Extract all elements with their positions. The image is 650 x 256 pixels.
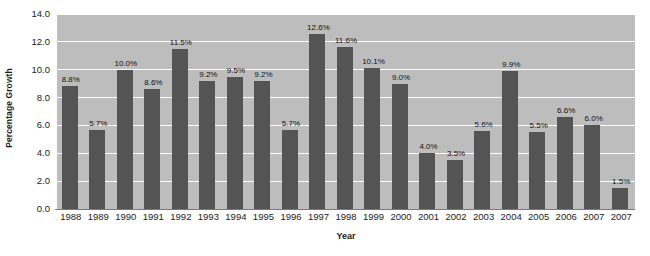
bar-value-label: 1.5% bbox=[607, 178, 635, 186]
x-axis-tick-label: 2003 bbox=[470, 211, 498, 223]
bar-value-label: 3.5% bbox=[442, 150, 470, 158]
bar-group[interactable]: 11.6% bbox=[332, 14, 360, 209]
bar-group[interactable]: 3.5% bbox=[442, 14, 470, 209]
bar[interactable] bbox=[419, 153, 435, 209]
x-axis-tick-label: 1989 bbox=[85, 211, 113, 223]
bar-value-label: 9.2% bbox=[195, 71, 223, 79]
bar-value-label: 10.1% bbox=[360, 58, 388, 66]
bar-group[interactable]: 6.6% bbox=[552, 14, 580, 209]
bar-value-label: 8.6% bbox=[140, 79, 168, 87]
x-axis-tick-label: 2004 bbox=[497, 211, 525, 223]
bar-group[interactable]: 6.0% bbox=[580, 14, 608, 209]
x-axis-tick-label: 1999 bbox=[360, 211, 388, 223]
y-axis-title-label: Percentage Growth bbox=[4, 68, 14, 148]
x-axis-tick-label: 2002 bbox=[442, 211, 470, 223]
bar[interactable] bbox=[199, 81, 215, 209]
y-axis-tick-labels: 0.02.04.06.08.010.012.014.0 bbox=[18, 14, 54, 209]
y-axis-tick-label: 4.0 bbox=[16, 149, 50, 159]
bar-group[interactable]: 10.1% bbox=[360, 14, 388, 209]
y-axis-tick-label: 14.0 bbox=[16, 9, 50, 19]
bar[interactable] bbox=[364, 68, 380, 209]
bar[interactable] bbox=[282, 130, 298, 209]
x-axis-tick-label: 2006 bbox=[552, 211, 580, 223]
x-axis-tick-label: 1992 bbox=[167, 211, 195, 223]
x-axis-tick-label: 1991 bbox=[140, 211, 168, 223]
bar-group[interactable]: 1.5% bbox=[607, 14, 635, 209]
x-axis-tick-label: 1993 bbox=[195, 211, 223, 223]
bar[interactable] bbox=[227, 77, 243, 209]
x-axis-tick-label: 2001 bbox=[415, 211, 443, 223]
bar-value-label: 11.5% bbox=[167, 39, 195, 47]
bar-group[interactable]: 11.5% bbox=[167, 14, 195, 209]
y-axis-tick-label: 12.0 bbox=[16, 37, 50, 47]
plot-area: 8.8%5.7%10.0%8.6%11.5%9.2%9.5%9.2%5.7%12… bbox=[57, 14, 635, 209]
bar[interactable] bbox=[337, 47, 353, 209]
bar[interactable] bbox=[557, 117, 573, 209]
bar-value-label: 9.5% bbox=[222, 67, 250, 75]
bar[interactable] bbox=[502, 71, 518, 209]
bar-value-label: 5.6% bbox=[470, 121, 498, 129]
bar-value-label: 5.5% bbox=[525, 122, 553, 130]
bar-value-label: 9.9% bbox=[497, 61, 525, 69]
bar-group[interactable]: 9.9% bbox=[497, 14, 525, 209]
y-axis-tick-label: 10.0 bbox=[16, 65, 50, 75]
bar-value-label: 12.6% bbox=[305, 24, 333, 32]
bar-group[interactable]: 9.2% bbox=[195, 14, 223, 209]
bar-value-label: 5.7% bbox=[85, 120, 113, 128]
bar-group[interactable]: 12.6% bbox=[305, 14, 333, 209]
y-axis-tick-label: 8.0 bbox=[16, 93, 50, 103]
x-axis-tick-label: 1994 bbox=[222, 211, 250, 223]
bar[interactable] bbox=[392, 84, 408, 209]
x-axis-title: Year bbox=[57, 231, 635, 241]
bar[interactable] bbox=[117, 70, 133, 209]
x-axis-tick-label: 1990 bbox=[112, 211, 140, 223]
bar-value-label: 10.0% bbox=[112, 60, 140, 68]
bar-chart: Percentage Growth 0.02.04.06.08.010.012.… bbox=[0, 0, 650, 256]
x-axis-tick-label: 1988 bbox=[57, 211, 85, 223]
y-axis-tick-label: 2.0 bbox=[16, 176, 50, 186]
bar-group[interactable]: 8.8% bbox=[57, 14, 85, 209]
bar-value-label: 4.0% bbox=[415, 143, 443, 151]
bar[interactable] bbox=[474, 131, 490, 209]
y-axis-tick-label: 6.0 bbox=[16, 121, 50, 131]
x-axis-tick-label: 2007 bbox=[607, 211, 635, 223]
x-axis-tick-label: 2007 bbox=[580, 211, 608, 223]
bar-group[interactable]: 8.6% bbox=[140, 14, 168, 209]
x-axis-tick-label: 2000 bbox=[387, 211, 415, 223]
bar-group[interactable]: 9.0% bbox=[387, 14, 415, 209]
bar-group[interactable]: 5.7% bbox=[277, 14, 305, 209]
x-axis-tick-label: 1998 bbox=[332, 211, 360, 223]
x-axis-tick-label: 1997 bbox=[305, 211, 333, 223]
bar-value-label: 11.6% bbox=[332, 37, 360, 45]
bar[interactable] bbox=[309, 34, 325, 210]
bar-group[interactable]: 9.5% bbox=[222, 14, 250, 209]
bar[interactable] bbox=[89, 130, 105, 209]
y-axis-tick-label: 0.0 bbox=[16, 204, 50, 214]
bar[interactable] bbox=[144, 89, 160, 209]
bar[interactable] bbox=[529, 132, 545, 209]
bar-group[interactable]: 4.0% bbox=[415, 14, 443, 209]
bar-group[interactable]: 10.0% bbox=[112, 14, 140, 209]
bar-group[interactable]: 5.7% bbox=[85, 14, 113, 209]
bar[interactable] bbox=[254, 81, 270, 209]
bar[interactable] bbox=[62, 86, 78, 209]
bar-value-label: 9.0% bbox=[387, 74, 415, 82]
bar-group[interactable]: 9.2% bbox=[250, 14, 278, 209]
x-axis-tick-labels: 1988198919901991199219931994199519961997… bbox=[57, 211, 635, 225]
bar-value-label: 9.2% bbox=[250, 71, 278, 79]
bar-group[interactable]: 5.5% bbox=[525, 14, 553, 209]
x-axis-tick-label: 2005 bbox=[525, 211, 553, 223]
bar[interactable] bbox=[172, 49, 188, 209]
bar[interactable] bbox=[612, 188, 628, 209]
bar-value-label: 5.7% bbox=[277, 120, 305, 128]
x-axis-tick-label: 1996 bbox=[277, 211, 305, 223]
bar-value-label: 6.6% bbox=[552, 107, 580, 115]
bar[interactable] bbox=[447, 160, 463, 209]
bars-layer: 8.8%5.7%10.0%8.6%11.5%9.2%9.5%9.2%5.7%12… bbox=[57, 14, 635, 209]
x-axis-tick-label: 1995 bbox=[250, 211, 278, 223]
x-axis-line bbox=[55, 209, 635, 210]
bar-value-label: 8.8% bbox=[57, 76, 85, 84]
bar-group[interactable]: 5.6% bbox=[470, 14, 498, 209]
bar-value-label: 6.0% bbox=[580, 115, 608, 123]
bar[interactable] bbox=[584, 125, 600, 209]
